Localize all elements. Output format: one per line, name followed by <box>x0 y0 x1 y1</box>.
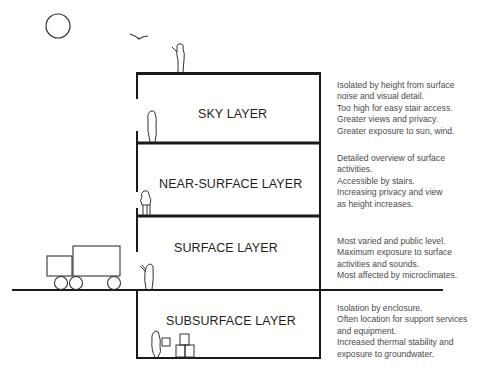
person-icon <box>172 44 184 72</box>
description-near-surface: Detailed overview of surface activities.… <box>337 153 445 210</box>
description-line: Maximum exposure to surface <box>337 247 457 258</box>
description-line: Most affected by microclimates. <box>337 270 457 281</box>
box-icon <box>176 334 194 357</box>
description-sky: Isolated by height from surface noise an… <box>337 80 455 137</box>
description-line: Most varied and public level. <box>337 236 457 247</box>
description-line: Often location for support services <box>337 314 467 325</box>
description-line: Isolated by height from surface <box>337 80 455 91</box>
person-icon <box>152 331 170 357</box>
description-line: Greater views and privacy. <box>337 114 455 125</box>
description-line: activities and sounds. <box>337 259 457 270</box>
layer-label-near-surface: NEAR-SURFACE LAYER <box>159 177 302 191</box>
description-line: Greater exposure to sun, wind. <box>337 126 455 137</box>
description-line: Increased thermal stability and <box>337 337 467 348</box>
description-line: Detailed overview of surface <box>337 153 445 164</box>
description-subsurface: Isolation by enclosure. Often location f… <box>337 303 467 360</box>
layer-label-sky: SKY LAYER <box>198 107 267 121</box>
person-icon <box>141 191 151 215</box>
description-line: exposure to groundwater. <box>337 349 467 360</box>
description-line: Too high for easy stair access. <box>337 103 455 114</box>
description-line: as height increases. <box>337 199 445 210</box>
description-line: and equipment. <box>337 326 467 337</box>
layer-label-surface: SURFACE LAYER <box>174 241 278 255</box>
description-line: Increasing privacy and view <box>337 187 445 198</box>
description-surface: Most varied and public level. Maximum ex… <box>337 236 457 282</box>
person-icon <box>140 264 153 289</box>
description-line: Accessible by stairs. <box>337 176 445 187</box>
truck-icon <box>47 246 121 290</box>
description-line: activities. <box>337 164 445 175</box>
description-line: Isolation by enclosure. <box>337 303 467 314</box>
bird-icon <box>130 34 148 39</box>
sun-icon <box>46 14 70 38</box>
description-line: noise and visual detail. <box>337 91 455 102</box>
layer-label-subsurface: SUBSURFACE LAYER <box>166 314 296 328</box>
person-icon <box>148 111 157 142</box>
